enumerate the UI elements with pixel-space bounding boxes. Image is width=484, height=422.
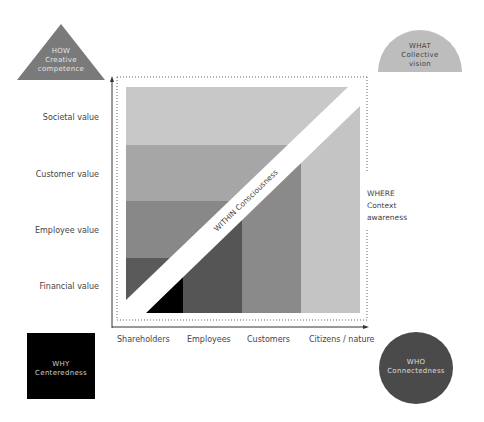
x-axis-arrow-icon	[363, 325, 369, 329]
why-title: WHY	[27, 360, 95, 369]
where-subtitle-1: Context	[367, 200, 407, 212]
y-axis-arrow-icon	[110, 76, 114, 82]
x-label-shareholders: Shareholders	[117, 335, 170, 344]
why-subtitle: Centeredness	[27, 369, 95, 378]
x-label-customers: Customers	[247, 335, 290, 344]
x-label-employees: Employees	[187, 335, 231, 344]
who-label: WHO Connectedness	[379, 358, 453, 376]
where-subtitle-2: awareness	[367, 212, 407, 224]
y-label-employee: Employee value	[35, 226, 99, 235]
why-label: WHY Centeredness	[27, 360, 95, 378]
y-label-financial: Financial value	[40, 282, 99, 291]
where-title: WHERE	[367, 188, 407, 200]
y-label-societal: Societal value	[43, 113, 99, 122]
who-title: WHO	[379, 358, 453, 367]
x-label-citizens: Citizens / nature	[309, 335, 375, 344]
y-label-customer: Customer value	[36, 170, 99, 179]
where-label: WHERE Context awareness	[367, 188, 407, 224]
who-subtitle: Connectedness	[379, 367, 453, 376]
